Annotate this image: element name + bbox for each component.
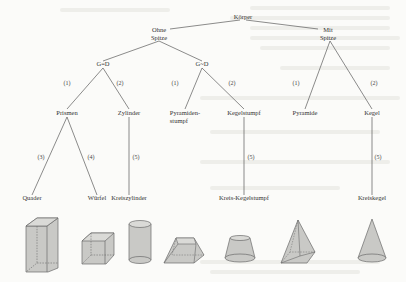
edge-label-wuerfel: (4)	[88, 154, 95, 161]
edge-label-prismen: (1)	[64, 80, 71, 87]
edge-label-kegel: (2)	[371, 80, 378, 87]
node-g-aehnlich-d: G~D	[196, 60, 209, 68]
pyramide-shape-icon	[281, 220, 315, 263]
edge-g-gleich-d-to-prismen	[67, 68, 103, 109]
edge-label-kreis-kegelstumpf: (5)	[248, 154, 255, 161]
edge-label-quader: (3)	[38, 154, 45, 161]
node-pyramidenstumpf: Pyramiden- stumpf	[170, 109, 200, 124]
wuerfel-shape-icon	[82, 233, 114, 264]
edge-label-kreiszylinder: (5)	[133, 154, 140, 161]
node-wuerfel: Würfel	[88, 194, 106, 202]
edge-mit-spitze-to-kegel	[330, 41, 372, 109]
shape-illustrations	[26, 218, 386, 272]
node-kegelstumpf: Kegelstumpf	[227, 109, 261, 117]
node-mit-spitze: Mit Spitze	[320, 26, 336, 41]
node-pyramide: Pyramide	[293, 109, 318, 117]
node-zylinder: Zylinder	[118, 109, 140, 117]
edge-koerper-to-ohne-spitze	[170, 20, 240, 29]
edge-label-pyramidenstumpf: (1)	[172, 80, 179, 87]
node-kegel: Kegel	[364, 109, 380, 117]
edge-label-pyramide: (1)	[293, 80, 300, 87]
pyramidenstumpf-shape-icon	[164, 238, 204, 263]
kegelstumpf-shape-icon	[225, 236, 255, 263]
node-prismen: Prismen	[56, 109, 77, 117]
edge-ohne-spitze-to-g-aehnlich-d	[159, 41, 202, 61]
quader-shape-icon	[26, 218, 58, 272]
node-ohne-spitze: Ohne Spitze	[151, 26, 167, 41]
edge-g-gleich-d-to-zylinder	[103, 68, 129, 109]
edge-koerper-to-mit-spitze	[246, 20, 318, 29]
edge-label-kegelstumpf: (2)	[229, 80, 236, 87]
tree-diagram	[0, 0, 406, 282]
edge-g-aehnlich-d-to-pyramidenstumpf	[185, 68, 202, 109]
node-quader: Quader	[22, 194, 41, 202]
edge-ohne-spitze-to-g-gleich-d	[103, 41, 159, 61]
edge-g-aehnlich-d-to-kegelstumpf	[202, 68, 244, 109]
node-g-gleich-d: G=D	[96, 60, 109, 68]
node-kreiskegel: Kreiskegel	[358, 194, 386, 202]
node-koerper: Körper	[234, 13, 252, 21]
edge-label-kreiskegel: (5)	[375, 154, 382, 161]
tree-edges	[32, 20, 372, 195]
node-kreis-kegelstumpf: Kreis-Kegelstumpf	[219, 194, 269, 202]
node-kreiszylinder: Kreiszylinder	[111, 194, 146, 202]
kegel-shape-icon	[358, 219, 386, 262]
edge-label-zylinder: (2)	[117, 80, 124, 87]
edge-mit-spitze-to-pyramide	[305, 41, 330, 109]
kreiszylinder-shape-icon	[129, 221, 151, 264]
